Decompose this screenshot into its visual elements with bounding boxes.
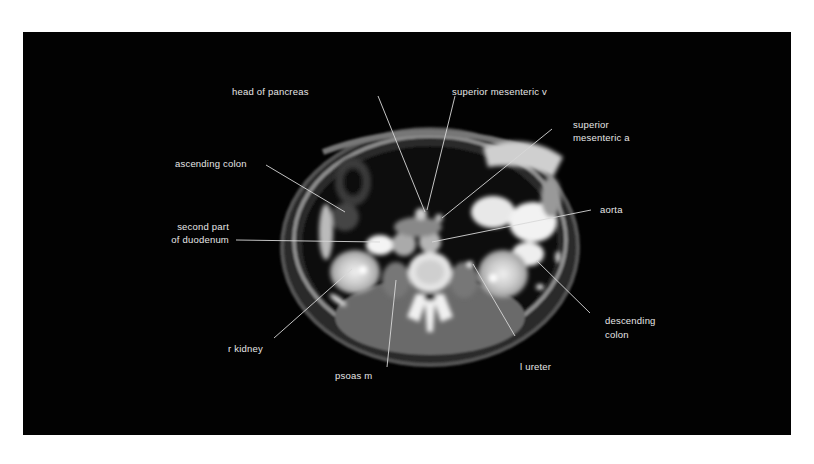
label-descending-colon-line2: colon xyxy=(605,328,629,341)
label-head-of-pancreas: head of pancreas xyxy=(232,85,309,98)
label-ascending-colon: ascending colon xyxy=(175,157,247,170)
label-psoas-m: psoas m xyxy=(335,369,372,382)
ct-image-panel: head of pancreas superior mesenteric v s… xyxy=(23,32,791,435)
label-superior-mesenteric-a-line2: mesenteric a xyxy=(573,131,630,144)
label-second-part-line2: of duodenum xyxy=(153,233,229,246)
label-second-part-line1: second part xyxy=(153,220,229,233)
label-aorta: aorta xyxy=(600,203,623,216)
label-superior-mesenteric-a-line1: superior xyxy=(573,118,609,131)
ct-scan-image xyxy=(23,32,791,435)
label-l-ureter: l ureter xyxy=(520,360,551,373)
label-r-kidney: r kidney xyxy=(228,342,263,355)
label-descending-colon-line1: descending xyxy=(605,314,656,327)
label-superior-mesenteric-v: superior mesenteric v xyxy=(452,85,547,98)
